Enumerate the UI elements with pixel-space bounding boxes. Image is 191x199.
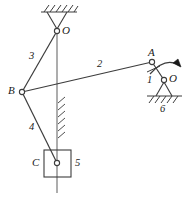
guide-hatch-icon — [58, 97, 65, 138]
link-4-member — [22, 92, 57, 163]
mechanism-svg — [0, 0, 191, 199]
label-link-6: 6 — [160, 104, 165, 115]
label-pivot-o-top: O — [62, 25, 70, 36]
label-link-4: 4 — [29, 122, 34, 133]
ground-support-top — [41, 5, 78, 29]
label-joint-c: C — [32, 157, 39, 168]
label-joint-b: B — [8, 85, 15, 96]
ground-support-right — [147, 82, 182, 103]
pin-joint-b-icon — [19, 89, 24, 94]
pin-joint-a-icon — [149, 59, 154, 64]
pin-joint-c-icon — [54, 160, 59, 165]
vertical-guide-line — [57, 31, 65, 193]
pivot-bracket-right — [156, 82, 172, 96]
label-pivot-o-right: O — [169, 73, 177, 84]
pin-joint-o-top-icon — [54, 28, 59, 33]
label-link-1: 1 — [147, 75, 152, 86]
link-2-member — [22, 62, 152, 92]
pin-joint-o-right-icon — [161, 77, 166, 82]
label-link-5: 5 — [75, 158, 80, 169]
label-link-3: 3 — [29, 51, 34, 62]
link-3-member — [22, 31, 57, 92]
ground-hatch-right-icon — [149, 96, 178, 103]
label-link-2: 2 — [97, 59, 102, 70]
mechanism-diagram: O B A C O 1 2 3 4 5 6 — [0, 0, 191, 199]
ground-hatch-icon — [44, 5, 78, 12]
label-joint-a: A — [148, 47, 155, 58]
